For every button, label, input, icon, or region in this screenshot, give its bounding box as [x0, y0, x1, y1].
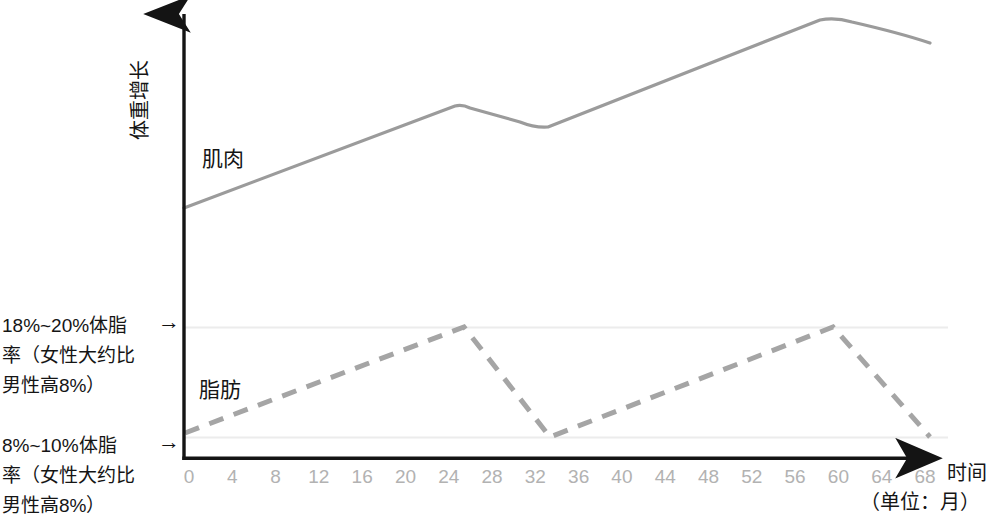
annotation-low-bodyfat: 8%~10%体脂 率（女性大约比 男性高8%） → — [2, 401, 178, 519]
x-tick-label: 44 — [648, 466, 682, 488]
x-tick-label: 4 — [215, 466, 249, 488]
y-axis-title: 体重增长 — [128, 20, 152, 140]
x-tick-label: 52 — [735, 466, 769, 488]
x-tick-label: 16 — [345, 466, 379, 488]
x-tick-label: 40 — [605, 466, 639, 488]
x-tick-label: 24 — [432, 466, 466, 488]
x-tick-label: 12 — [302, 466, 336, 488]
x-tick-label: 60 — [821, 466, 855, 488]
annotation-low-text: 8%~10%体脂 率（女性大约比 男性高8%） — [2, 435, 135, 516]
series-label-fat: 脂肪 — [199, 379, 241, 400]
x-tick-label: 36 — [562, 466, 596, 488]
series-line-muscle — [184, 19, 930, 208]
weight-growth-chart: 18%~20%体脂 率（女性大约比 男性高8%） → 8%~10%体脂 率（女性… — [0, 0, 986, 519]
x-tick-label: 32 — [518, 466, 552, 488]
x-tick-label: 0 — [172, 466, 206, 488]
x-tick-label: 56 — [778, 466, 812, 488]
x-axis-title: 时间 — [947, 463, 986, 483]
x-tick-label: 28 — [475, 466, 509, 488]
arrow-right-icon: → — [158, 311, 180, 333]
x-tick-label: 8 — [259, 466, 293, 488]
annotation-high-text: 18%~20%体脂 率（女性大约比 男性高8%） — [2, 315, 135, 396]
x-tick-label: 64 — [865, 466, 899, 488]
x-tick-label: 20 — [388, 466, 422, 488]
series-line-fat — [185, 327, 930, 437]
x-tick-label: 68 — [908, 466, 942, 488]
arrow-right-icon: → — [158, 431, 180, 453]
x-axis-unit: （单位：月） — [860, 492, 980, 512]
x-tick-label: 48 — [692, 466, 726, 488]
series-label-muscle: 肌肉 — [202, 148, 244, 169]
